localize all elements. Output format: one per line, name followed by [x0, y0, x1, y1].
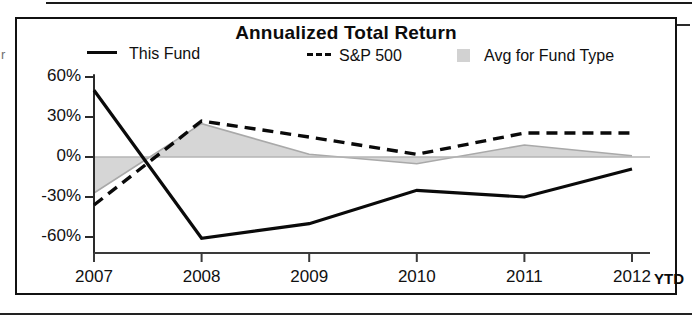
this-fund-series-line	[94, 90, 632, 238]
x-axis-ticks	[94, 253, 632, 262]
y-axis-tick-label: 0%	[19, 146, 81, 166]
x-axis-tick-label: 2009	[274, 267, 344, 287]
page-edge-mark: r	[1, 48, 10, 62]
x-axis-tick-label: 2010	[382, 267, 452, 287]
chart-plot-svg	[17, 19, 679, 297]
x-axis-tick-label: 2008	[167, 267, 237, 287]
x-axis-ytd-suffix: YTD	[654, 270, 684, 287]
chart-panel: Annualized Total Return This Fund S&P 50…	[15, 17, 677, 295]
x-axis-tick-label: 2007	[59, 267, 129, 287]
y-axis-tick-label: -30%	[19, 186, 81, 206]
page-rule-bottom	[0, 313, 692, 315]
plot-area: 60%30%0%-30%-60% 20072008200920102011201…	[17, 19, 675, 293]
y-axis-ticks	[85, 77, 94, 237]
sp500-series-line	[94, 121, 632, 205]
y-axis-tick-label: -60%	[19, 226, 81, 246]
y-axis-tick-label: 30%	[19, 106, 81, 126]
page-rule-top	[46, 2, 692, 4]
y-axis-tick-label: 60%	[19, 66, 81, 86]
x-axis-tick-label: 2011	[489, 267, 559, 287]
